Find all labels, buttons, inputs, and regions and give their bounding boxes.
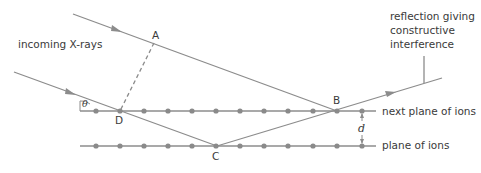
plane-label: plane of ions bbox=[382, 139, 449, 151]
reflection-label-line2: constructive bbox=[390, 24, 455, 36]
incoming-xrays-label: incoming X-rays bbox=[18, 38, 102, 50]
angle-theta-label: θ bbox=[82, 98, 88, 109]
point-d-label: D bbox=[115, 114, 123, 126]
arrowhead-upper-ray bbox=[111, 25, 122, 32]
bragg-diffraction-diagram: incoming X-rays reflection giving constr… bbox=[0, 0, 481, 173]
next-plane-label: next plane of ions bbox=[382, 105, 476, 117]
arrowhead-reflected-ray bbox=[385, 91, 396, 97]
lower-incoming-ray bbox=[14, 72, 217, 146]
reflection-label-line3: interference bbox=[390, 38, 454, 50]
arrowhead-lower-ray bbox=[65, 88, 76, 95]
wavefront-dashed-line bbox=[120, 43, 154, 111]
point-a-label: A bbox=[152, 29, 160, 41]
reflection-label-line1: reflection giving bbox=[390, 10, 475, 22]
point-b-label: B bbox=[333, 94, 340, 106]
point-c-label: C bbox=[212, 150, 219, 162]
spacing-arrowhead-down bbox=[360, 139, 364, 144]
spacing-d-label: d bbox=[358, 122, 365, 135]
spacing-arrowhead-up bbox=[360, 113, 364, 118]
